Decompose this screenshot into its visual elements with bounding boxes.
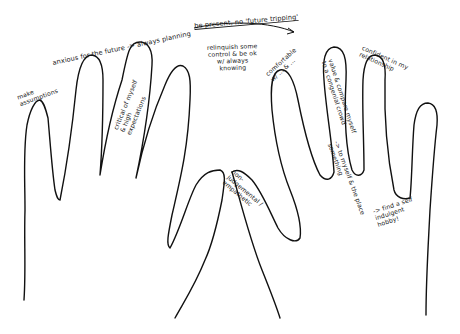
note-relinquish-control: relinquish some control & be ok w/ alway…: [204, 42, 261, 72]
arrow-be-present: [190, 18, 300, 38]
